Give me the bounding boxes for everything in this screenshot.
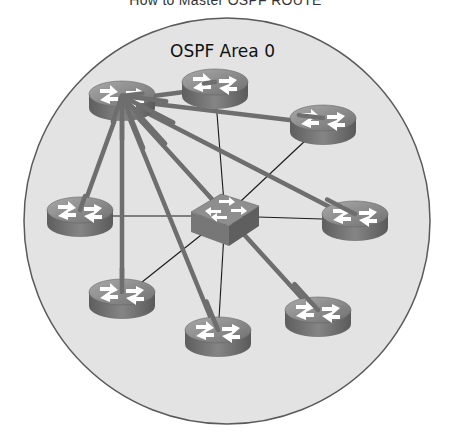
adjacency-peer-segment <box>299 115 323 118</box>
adjacency-peer-segment <box>204 82 215 83</box>
area-label: OSPF Area 0 <box>170 41 275 61</box>
router-icon-R7[interactable] <box>185 317 251 357</box>
ospf-network-diagram: OSPF Area 0 <box>0 0 451 436</box>
router-icon-R8[interactable] <box>285 297 351 337</box>
router-icon-R5[interactable] <box>322 201 388 241</box>
router-icon-R4[interactable] <box>47 197 113 237</box>
router-icon-R2[interactable] <box>182 69 248 109</box>
router-icon-R3[interactable] <box>290 105 356 145</box>
